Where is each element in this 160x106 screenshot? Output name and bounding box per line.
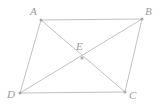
segment-bc — [125, 19, 142, 92]
vertex-marker-d — [19, 92, 22, 95]
vertex-marker-a — [40, 19, 43, 22]
vertex-label-a: A — [30, 6, 37, 17]
segment-cd — [20, 92, 125, 93]
vertex-marker-b — [141, 18, 144, 21]
diagonal-ac — [41, 20, 125, 92]
geometry-figure: A B C D E — [0, 0, 160, 106]
vertex-label-e: E — [76, 41, 83, 52]
vertex-label-d: D — [7, 89, 15, 100]
vertex-label-c: C — [129, 90, 136, 101]
vertex-marker-c — [124, 91, 127, 94]
vertex-label-b: B — [145, 6, 152, 17]
segment-ab — [41, 19, 142, 20]
vertex-marker-e — [81, 57, 84, 60]
